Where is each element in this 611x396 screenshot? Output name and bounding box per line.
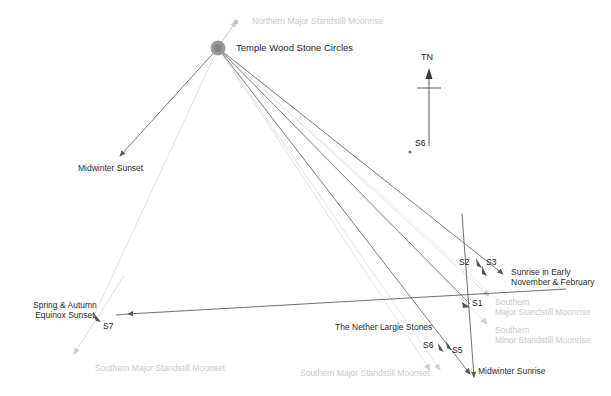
marker-s3 (482, 266, 487, 276)
marker-northern-moonrise-dot (234, 20, 238, 24)
marker-s2 (476, 258, 482, 268)
ray-to-s1 (218, 48, 470, 304)
ray-faint-se-long (218, 48, 498, 300)
alignment-diagram: Northern Major Standstill Moonrise Templ… (0, 0, 611, 396)
label-sunrise-early-november-february: Sunrise in Early November & February (511, 267, 595, 287)
label-stone-s2: S2 (459, 257, 469, 267)
ray-s7-baseline-tail (116, 314, 128, 315)
ray-midwinter-sunset (120, 48, 218, 156)
label-the-nether-largie-stones: The Nether Largie Stones (335, 322, 432, 332)
label-southern-minor-standstill-moonrise: Southern Minor Standstill Moonrise (495, 325, 590, 345)
north-arrowhead (426, 68, 433, 79)
label-stone-s7: S7 (103, 321, 113, 331)
marker-s6-bottom (438, 343, 444, 352)
label-true-north: TN (421, 52, 433, 63)
label-stone-s6-bottom: S6 (423, 340, 433, 350)
ray-equinox-sunset (92, 48, 218, 320)
ray-sunrise-early-november-february (218, 48, 503, 274)
label-midwinter-sunset: Midwinter Sunset (78, 163, 143, 173)
ray-s3-to-midwinter-sunrise (462, 214, 474, 377)
faint-ray-group (74, 21, 498, 370)
temple-wood-marker[interactable] (211, 41, 226, 56)
label-spring-autumn-equinox-sunset: Spring & Autumn Equinox Sunset (33, 300, 97, 320)
label-temple-wood-stone-circles: Temple Wood Stone Circles (236, 42, 353, 53)
label-stone-s3: S3 (486, 257, 496, 267)
stone-circle-inner (214, 44, 222, 52)
true-north-indicator (417, 68, 441, 146)
marker-s6-north (408, 150, 411, 153)
stone-marker-group (93, 20, 487, 352)
label-southern-major-standstill-moonset-left: Southern Major Standstill Moonset (95, 363, 225, 373)
label-northern-major-standstill-moonrise: Northern Major Standstill Moonrise (252, 16, 383, 26)
label-stone-s1: S1 (472, 298, 482, 308)
label-stone-s5: S5 (452, 345, 462, 355)
label-southern-major-standstill-moonrise: Southern Major Standstill Moonrise (495, 297, 590, 317)
label-stone-s6-north: S6 (415, 138, 425, 148)
label-southern-major-standstill-moonset-mid: Southern Major Standstill Moonset (300, 368, 430, 378)
label-midwinter-sunrise: Midwinter Sunrise (478, 366, 546, 376)
